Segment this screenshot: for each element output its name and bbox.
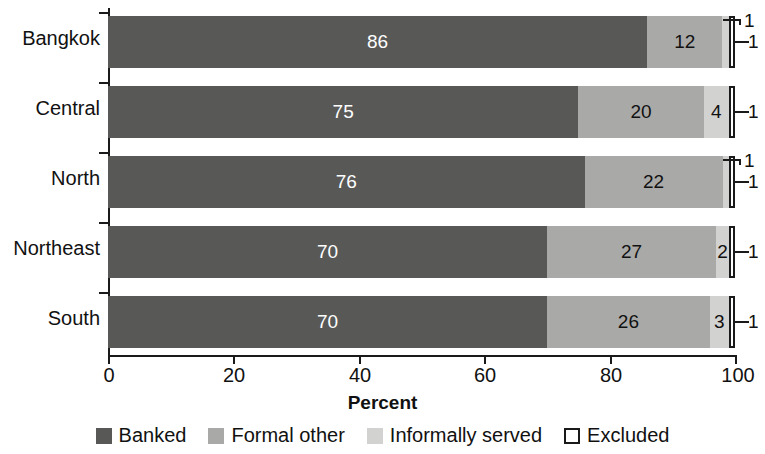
x-tick-0 [108,355,110,364]
y-tick-3 [99,222,108,224]
x-tick-100 [735,355,737,364]
legend-label-banked: Banked [119,424,187,447]
legend-item-informally-served[interactable]: Informally served [367,424,542,447]
leader-line-excluded-northeast [735,251,749,253]
legend-swatch-formal-other-icon [208,428,224,444]
bar-row-central: 75 20 4 [108,86,735,138]
x-axis-title: Percent [0,392,765,414]
outside-label-excluded: 1 [748,171,759,193]
x-tick-60 [484,355,486,364]
bar-segment-banked[interactable]: 70 [108,226,547,278]
x-tick-40 [359,355,361,364]
bar-row-bangkok: 86 12 [108,16,735,68]
bar-segment-banked[interactable]: 76 [108,156,585,208]
legend-item-formal-other[interactable]: Formal other [208,424,344,447]
y-tick-2 [99,152,108,154]
x-tick-label-40: 40 [349,364,371,387]
bar-segment-formal-other[interactable]: 20 [578,86,703,138]
leader-line-excluded-south [735,321,749,323]
leader-tick-informal-bangkok [739,19,741,25]
y-tick-1 [99,82,108,84]
bar-segment-informally-served[interactable]: 4 [704,86,729,138]
plot-area: 86 12 1 1 75 20 4 1 76 22 1 1 [108,8,735,353]
stacked-bar-chart: Bangkok Central North Northeast South 86… [0,0,765,454]
chart-legend: Banked Formal other Informally served Ex… [0,424,765,447]
x-tick-label-60: 60 [474,364,496,387]
bar-row-south: 70 26 3 [108,296,735,348]
outside-label-excluded: 1 [748,31,759,53]
legend-label-informally-served: Informally served [390,424,542,447]
bar-segment-formal-other[interactable]: 22 [585,156,723,208]
x-axis-line [108,355,737,357]
legend-label-formal-other: Formal other [231,424,344,447]
bar-segment-informally-served[interactable]: 3 [710,296,729,348]
y-axis-label-south: South [0,307,100,330]
y-axis-label-bangkok: Bangkok [0,27,100,50]
legend-swatch-informally-served-icon [367,428,383,444]
leader-line-excluded-central [735,111,749,113]
x-tick-80 [610,355,612,364]
x-tick-label-0: 0 [103,364,114,387]
x-tick-20 [233,355,235,364]
bar-segment-formal-other[interactable]: 27 [547,226,716,278]
x-tick-label-20: 20 [223,364,245,387]
legend-item-excluded[interactable]: Excluded [564,424,669,447]
y-tick-0 [99,12,108,14]
outside-label-informally-served: 1 [744,150,755,172]
bar-row-north: 76 22 [108,156,735,208]
x-tick-label-80: 80 [600,364,622,387]
bar-segment-banked[interactable]: 75 [108,86,578,138]
x-tick-label-100: 100 [721,364,754,387]
y-axis-label-north: North [0,167,100,190]
bar-segment-banked[interactable]: 70 [108,296,547,348]
outside-label-excluded: 1 [748,101,759,123]
bar-segment-banked[interactable]: 86 [108,16,647,68]
y-axis-label-central: Central [0,97,100,120]
legend-swatch-banked-icon [96,428,112,444]
leader-tick-informal-north [739,159,741,165]
outside-label-informally-served: 1 [744,10,755,32]
leader-line-excluded-bangkok [735,41,749,43]
bar-segment-informally-served[interactable]: 2 [716,226,729,278]
leader-line-excluded-north [735,181,749,183]
legend-swatch-excluded-icon [564,428,580,444]
outside-label-excluded: 1 [748,311,759,333]
bar-segment-formal-other[interactable]: 12 [647,16,722,68]
y-tick-4 [99,292,108,294]
bar-segment-formal-other[interactable]: 26 [547,296,710,348]
bar-row-northeast: 70 27 2 [108,226,735,278]
outside-label-excluded: 1 [748,241,759,263]
legend-label-excluded: Excluded [587,424,669,447]
legend-item-banked[interactable]: Banked [96,424,187,447]
y-axis-label-northeast: Northeast [0,237,100,260]
